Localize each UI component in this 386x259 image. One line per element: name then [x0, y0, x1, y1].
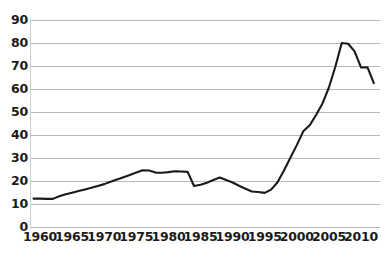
x-axis-tick-label: 1960 [23, 231, 57, 244]
y-axis-tick-label: 60 [2, 82, 28, 95]
x-axis-tick-label: 2005 [312, 231, 346, 244]
x-axis-tick-label: 1975 [119, 231, 153, 244]
y-axis-tick-label: 10 [2, 198, 28, 211]
series-line-group [31, 0, 380, 259]
y-axis-tick-label: 20 [2, 175, 28, 188]
y-axis-tick-label: 80 [2, 36, 28, 49]
y-axis-tick-label: 50 [2, 105, 28, 118]
y-axis-tick-label: 40 [2, 129, 28, 142]
data-series-line [34, 43, 374, 199]
x-axis-tick-labels: 1960196519701975198019851990199520002005… [0, 231, 386, 251]
x-axis-tick-label: 1995 [248, 231, 282, 244]
x-axis-tick-label: 1970 [87, 231, 121, 244]
y-axis-tick-label: 70 [2, 59, 28, 72]
y-axis-tick-label: 30 [2, 152, 28, 165]
y-axis-tick-label: 90 [2, 13, 28, 26]
y-axis-line [30, 18, 31, 228]
x-axis-tick-label: 2000 [280, 231, 314, 244]
x-axis-tick-label: 1990 [216, 231, 250, 244]
x-axis-tick-label: 1980 [151, 231, 185, 244]
y-axis-tick-labels: 9080706050403020100 [0, 0, 28, 259]
plot-area [31, 0, 380, 259]
x-axis-tick-label: 2010 [344, 231, 378, 244]
x-axis-tick-label: 1985 [184, 231, 218, 244]
x-axis-tick-label: 1965 [55, 231, 89, 244]
line-chart: 9080706050403020100 19601965197019751980… [0, 0, 386, 259]
